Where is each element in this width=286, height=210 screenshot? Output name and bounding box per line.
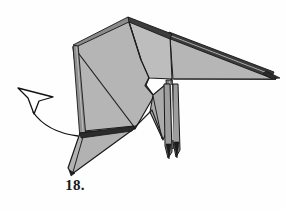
tail-wedge-group xyxy=(168,32,280,80)
origami-illustration xyxy=(0,0,286,210)
legs-group xyxy=(164,80,180,159)
step-number-label: 18. xyxy=(52,178,98,193)
arrow-head xyxy=(18,88,53,114)
tail-bottom-edge xyxy=(174,79,276,80)
lower-left-flap-group xyxy=(68,126,136,176)
fold-direction-arrow xyxy=(18,88,78,136)
arrow-tail-curve xyxy=(33,112,78,136)
origami-figure: 18. xyxy=(0,0,286,210)
